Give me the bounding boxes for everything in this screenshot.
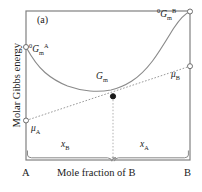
label-g0b-superscript: B [172, 7, 176, 14]
label-mua-subscript: A [36, 128, 41, 135]
label-chemical-potential-a: μA [31, 124, 40, 134]
gibbs-energy-figure: (a) 0GmA 0GmB Gm μA μB xB xA A Mole frac… [0, 0, 202, 192]
label-mub-subscript: B [176, 74, 180, 81]
marker-gm [110, 94, 115, 99]
y-axis-title: Molar Gibbs energy [12, 25, 23, 145]
marker-mu-a [24, 118, 29, 123]
label-xa-subscript: A [144, 144, 149, 151]
label-g0a-symbol: G [32, 44, 39, 54]
label-chemical-potential-b: μB [171, 70, 180, 80]
label-g0a-superscript: A [44, 42, 49, 49]
label-mole-fraction-b: xB [61, 140, 69, 150]
label-gm-subscript: m [103, 76, 108, 83]
label-g0b-symbol: G [160, 9, 167, 19]
label-molar-gibbs-energy: Gm [96, 72, 108, 82]
tangent-line [26, 66, 190, 120]
panel-label: (a) [37, 15, 48, 25]
label-gm-symbol: G [96, 71, 103, 81]
label-pure-a-gibbs-energy: 0GmA [29, 45, 48, 55]
plot-canvas [0, 0, 202, 192]
plot-frame [26, 11, 190, 160]
x-axis-title: Mole fraction of B [57, 168, 135, 179]
x-axis-right-endpoint-label: B [184, 168, 191, 179]
label-mole-fraction-a: xA [140, 140, 149, 150]
label-xb-subscript: B [65, 144, 69, 151]
marker-mu-b [188, 64, 193, 69]
x-axis-left-endpoint-label: A [22, 168, 30, 179]
label-pure-b-gibbs-energy: 0GmB [157, 10, 176, 20]
marker-g0a [24, 45, 29, 50]
gibbs-energy-curve [26, 12, 190, 92]
marker-g0b [188, 9, 193, 14]
label-g0a-subscript: m [39, 49, 44, 56]
label-g0b-subscript: m [167, 14, 172, 21]
